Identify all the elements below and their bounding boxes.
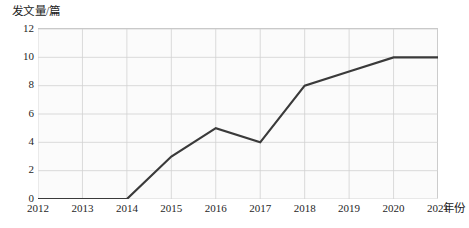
x-tick-label: 2015 [160,203,182,214]
x-tick-label: 2020 [383,203,405,214]
y-tick-label: 2 [6,164,34,175]
chart-figure: 发文量/篇 024681012 201220132014201520162017… [0,0,469,228]
x-axis-title: 年份 [443,203,465,214]
data-series-line [38,57,438,199]
x-tick-label: 2019 [338,203,360,214]
horizontal-gridlines [38,29,438,199]
y-tick-label: 12 [6,23,34,34]
y-tick-label: 6 [6,108,34,119]
plot-area [38,28,438,198]
chart-plot-svg [38,29,438,199]
x-tick-label: 2016 [205,203,227,214]
x-tick-label: 2018 [294,203,316,214]
x-tick-label: 2013 [71,203,93,214]
y-tick-label: 4 [6,136,34,147]
y-tick-label: 10 [6,51,34,62]
y-axis-tick-labels: 024681012 [0,28,34,198]
y-tick-label: 8 [6,79,34,90]
y-axis-title: 发文量/篇 [12,2,61,18]
x-tick-label: 2017 [249,203,271,214]
x-axis-tick-labels: 2012201320142015201620172018201920202021 [38,203,438,221]
x-tick-label: 2014 [116,203,138,214]
x-tick-label: 2012 [27,203,49,214]
